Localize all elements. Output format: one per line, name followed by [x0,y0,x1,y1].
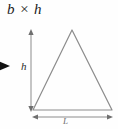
base-label: L [63,116,68,126]
area-formula-label: b × h [7,1,42,18]
triangle-shape [33,30,112,110]
triangle-area-figure: b × h h L [0,0,118,129]
figure-canvas [0,0,118,129]
height-arrow-up-icon [28,29,33,35]
base-arrow-right-icon [107,115,113,120]
base-arrow-left-icon [32,115,38,120]
height-label: h [21,60,27,72]
left-pointer-arrow-icon [0,60,10,72]
